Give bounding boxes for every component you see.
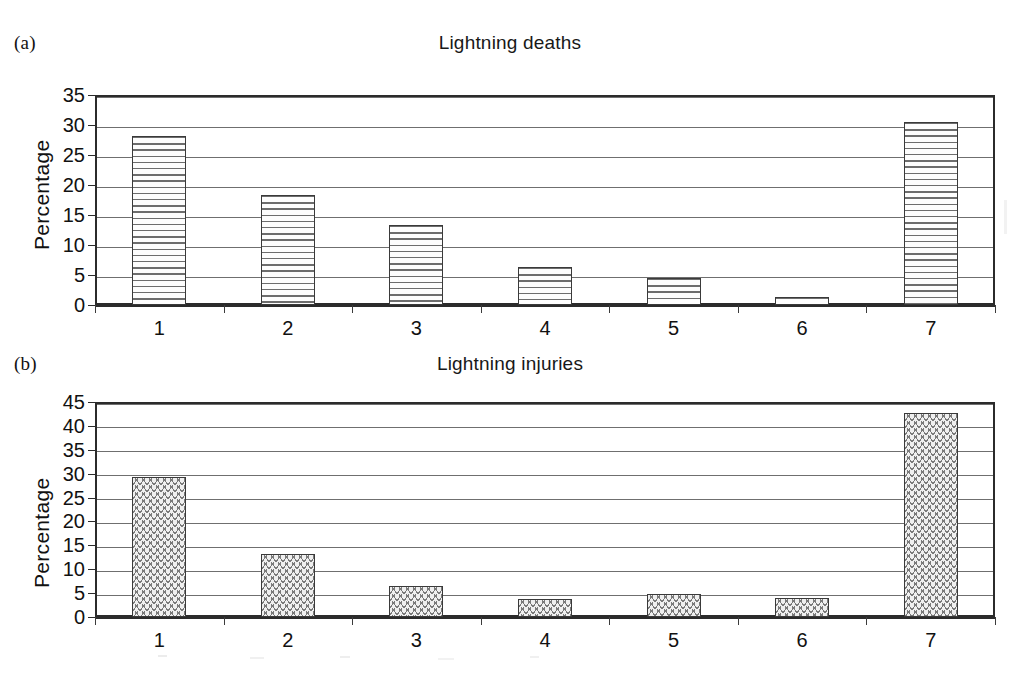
y-tick-mark xyxy=(88,402,95,403)
y-tick-label: 5 xyxy=(74,582,85,605)
gridline xyxy=(97,595,993,596)
panel-b-plot-area xyxy=(95,402,995,617)
y-tick-label: 0 xyxy=(74,606,85,629)
y-tick-mark xyxy=(88,245,95,246)
gridline xyxy=(97,427,993,428)
bar-7 xyxy=(904,413,958,617)
x-tick-mark xyxy=(352,617,353,625)
y-tick-mark xyxy=(88,95,95,96)
y-tick-mark xyxy=(88,593,95,594)
x-tick-label: 3 xyxy=(411,317,422,340)
x-tick-mark xyxy=(609,305,610,313)
x-tick-label: 6 xyxy=(797,629,808,652)
panel-b-y-axis-label: Percentage xyxy=(30,478,54,588)
bar-6 xyxy=(775,297,829,305)
x-tick-label: 5 xyxy=(668,629,679,652)
y-tick-label: 25 xyxy=(63,486,85,509)
gridline xyxy=(97,97,993,98)
y-tick-label: 0 xyxy=(74,294,85,317)
x-tick-mark xyxy=(738,305,739,313)
x-tick-mark xyxy=(95,305,96,313)
bar-1 xyxy=(132,136,186,305)
y-tick-label: 30 xyxy=(63,462,85,485)
x-tick-label: 1 xyxy=(154,317,165,340)
y-tick-label: 35 xyxy=(63,438,85,461)
y-tick-mark xyxy=(88,275,95,276)
bar-6 xyxy=(775,598,829,617)
y-tick-mark xyxy=(88,521,95,522)
gridline xyxy=(97,523,993,524)
bar-2 xyxy=(261,554,315,617)
panel-a-x-axis-line xyxy=(95,305,995,307)
x-tick-label: 7 xyxy=(925,629,936,652)
y-tick-mark xyxy=(88,305,95,306)
y-tick-mark xyxy=(88,569,95,570)
gridline xyxy=(97,127,993,128)
x-tick-mark xyxy=(224,617,225,625)
x-tick-mark xyxy=(481,617,482,625)
x-tick-label: 3 xyxy=(411,629,422,652)
bar-5 xyxy=(647,594,701,617)
x-tick-mark xyxy=(481,305,482,313)
gridline xyxy=(97,404,993,405)
panel-a: (a) Lightning deaths Percentage 05101520… xyxy=(0,18,1020,338)
y-tick-label: 20 xyxy=(63,174,85,197)
y-tick-label: 5 xyxy=(74,264,85,287)
bar-7 xyxy=(904,122,958,305)
x-tick-label: 6 xyxy=(797,317,808,340)
x-tick-mark xyxy=(866,305,867,313)
y-tick-mark xyxy=(88,215,95,216)
y-tick-label: 10 xyxy=(63,558,85,581)
x-tick-label: 5 xyxy=(668,317,679,340)
bar-5 xyxy=(647,278,701,305)
scan-artifact xyxy=(158,655,167,657)
bar-2 xyxy=(261,195,315,305)
scan-artifact xyxy=(250,657,264,659)
x-tick-label: 4 xyxy=(539,629,550,652)
x-tick-label: 2 xyxy=(282,317,293,340)
bar-4 xyxy=(518,599,572,617)
y-tick-label: 30 xyxy=(63,114,85,137)
panel-a-title: Lightning deaths xyxy=(0,32,1020,54)
gridline xyxy=(97,217,993,218)
gridline xyxy=(97,499,993,500)
panel-b-x-axis-line xyxy=(95,617,995,619)
x-tick-label: 4 xyxy=(539,317,550,340)
y-tick-label: 15 xyxy=(63,534,85,557)
x-tick-label: 7 xyxy=(925,317,936,340)
x-tick-mark xyxy=(609,617,610,625)
panel-a-y-axis-label: Percentage xyxy=(30,140,54,250)
bar-3 xyxy=(389,586,443,617)
y-tick-mark xyxy=(88,125,95,126)
x-tick-mark xyxy=(995,305,996,313)
y-tick-label: 15 xyxy=(63,204,85,227)
scan-artifact xyxy=(530,656,539,658)
gridline xyxy=(97,547,993,548)
figure-two-bar-charts: (a) Lightning deaths Percentage 05101520… xyxy=(0,0,1020,686)
y-tick-mark xyxy=(88,185,95,186)
x-tick-mark xyxy=(738,617,739,625)
y-tick-mark xyxy=(88,498,95,499)
y-tick-mark xyxy=(88,545,95,546)
bar-1 xyxy=(132,477,186,617)
gridline xyxy=(97,187,993,188)
gridline xyxy=(97,451,993,452)
bar-3 xyxy=(389,225,443,305)
bar-4 xyxy=(518,267,572,305)
y-tick-mark xyxy=(88,450,95,451)
y-tick-mark xyxy=(88,426,95,427)
y-tick-mark xyxy=(88,617,95,618)
gridline xyxy=(97,247,993,248)
y-tick-label: 40 xyxy=(63,414,85,437)
scan-artifact xyxy=(340,656,350,658)
x-tick-mark xyxy=(224,305,225,313)
x-tick-mark xyxy=(995,617,996,625)
panel-b-title: Lightning injuries xyxy=(0,353,1020,375)
y-tick-label: 25 xyxy=(63,144,85,167)
x-tick-mark xyxy=(866,617,867,625)
y-tick-label: 45 xyxy=(63,391,85,414)
x-tick-mark xyxy=(95,617,96,625)
gridline xyxy=(97,571,993,572)
x-tick-label: 1 xyxy=(154,629,165,652)
y-tick-label: 10 xyxy=(63,234,85,257)
